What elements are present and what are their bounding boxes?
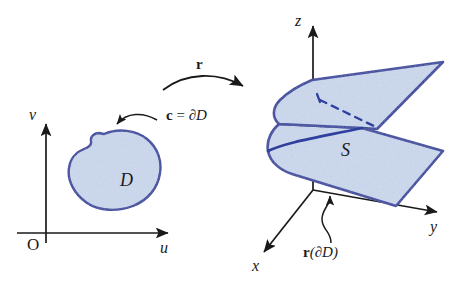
image-boundary-paren: (∂D) [310,244,338,260]
v-axis-label: v [29,107,36,123]
region-D-path [69,131,161,210]
z-axis-label: z [295,13,301,29]
map-arrow [163,76,243,90]
map-arrow-curve [163,76,243,90]
image-boundary-symbol-r: r [303,244,310,260]
region-D-shape [69,131,161,210]
x-axis-label: x [252,258,259,274]
x-axis-line [264,190,313,252]
parametrization-figure: v u O D c = ∂D r z y x S r(∂D) [0,0,462,293]
y-axis-label: y [430,219,437,235]
surface-s-label: S [341,141,350,159]
image-boundary-pointer-squiggle [322,196,331,243]
surface-S-shape [268,62,443,206]
image-boundary-label: r(∂D) [303,245,338,260]
figure-graphics [0,0,462,293]
map-label-r: r [196,57,203,72]
u-axis-label: u [160,240,168,256]
boundary-pointer [117,114,157,124]
origin-label: O [27,236,39,253]
surface-lower-sheet [268,124,443,206]
region-d-label: D [120,171,133,189]
image-boundary-pointer [322,196,331,243]
boundary-curve-dD: ∂D [189,107,207,123]
boundary-curve-symbol: c [166,107,173,123]
boundary-pointer-curve [117,114,157,124]
boundary-curve-label: c = ∂D [166,108,207,123]
boundary-curve-equals: = [173,107,189,123]
